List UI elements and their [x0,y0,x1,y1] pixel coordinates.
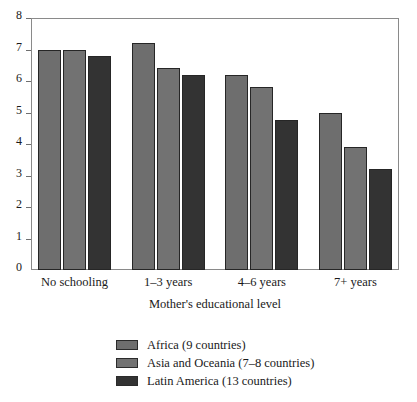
legend-item: Africa (9 countries) [116,336,356,354]
bar-chart-figure: 012345678 No schooling1–3 years4–6 years… [0,0,417,402]
x-axis-title: Mother's educational level [31,296,399,312]
bar [63,50,86,271]
bar [88,56,111,270]
legend-color-swatch [116,340,138,350]
y-axis-tick-label: 3 [2,167,22,179]
legend-item: Latin America (13 countries) [116,372,356,390]
y-axis-tick-label: 8 [2,9,22,21]
legend-item: Asia and Oceania (7–8 countries) [116,354,356,372]
y-axis-tick-label: 1 [2,230,22,242]
bar [319,113,342,271]
bar [250,87,273,270]
y-axis-tick-label: 2 [2,198,22,210]
y-axis: 012345678 [0,18,31,270]
legend-item-label: Latin America (13 countries) [147,374,292,388]
y-axis-tick-label: 0 [2,261,22,273]
y-axis-tick-label: 4 [2,135,22,147]
x-axis-category-label: 7+ years [296,274,416,290]
legend-color-swatch [116,376,138,386]
legend: Africa (9 countries)Asia and Oceania (7–… [116,336,356,390]
bar [225,75,248,270]
bar [132,43,155,270]
bar [182,75,205,270]
bar [157,68,180,270]
y-axis-tick-label: 6 [2,72,22,84]
y-axis-tick-label: 7 [2,41,22,53]
legend-item-label: Africa (9 countries) [147,338,246,352]
legend-color-swatch [116,358,138,368]
bars-layer [31,18,399,270]
bar [344,147,367,270]
legend-item-label: Asia and Oceania (7–8 countries) [147,356,314,370]
bar [38,50,61,271]
bar [369,169,392,270]
bar [275,120,298,270]
x-axis-category-labels: No schooling1–3 years4–6 years7+ years [31,274,399,294]
y-axis-tick-label: 5 [2,104,22,116]
